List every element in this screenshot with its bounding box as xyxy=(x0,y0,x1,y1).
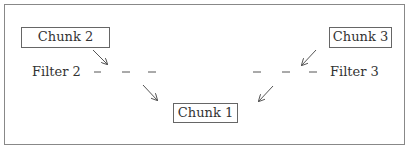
edges-layer xyxy=(0,0,412,152)
arrow-chunk2-to-filter2-icon xyxy=(93,50,107,64)
arrow-filter2-to-chunk1-icon xyxy=(143,85,157,100)
arrow-filter3-to-chunk1-icon xyxy=(259,86,273,101)
arrow-chunk3-to-filter3-icon xyxy=(302,50,316,65)
